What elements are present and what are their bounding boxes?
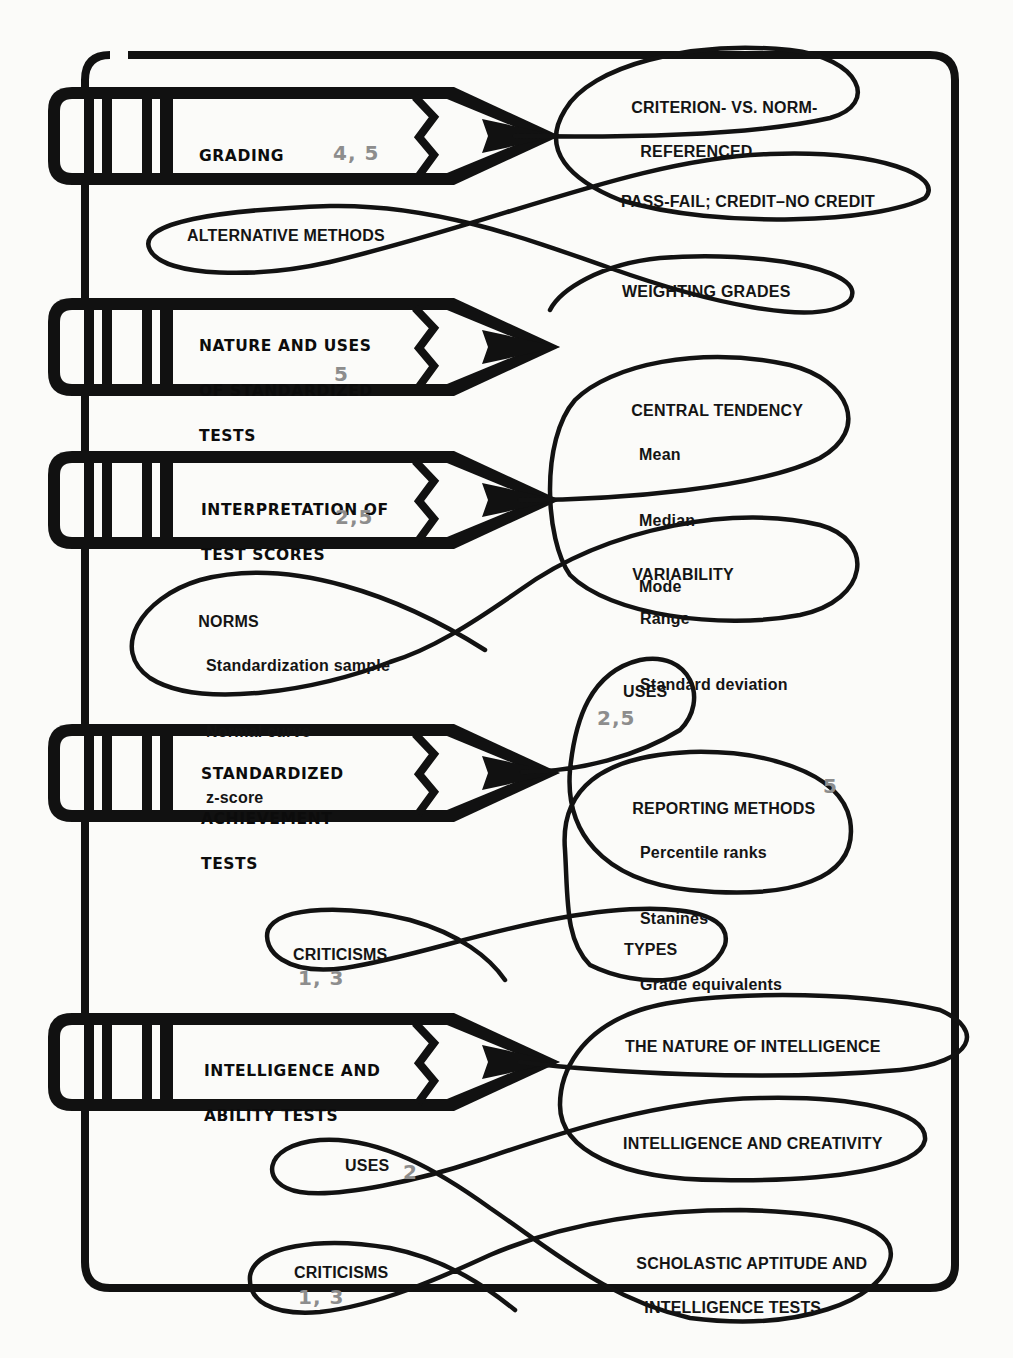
branch-nature-of-intelligence: THE NATURE OF INTELLIGENCE — [625, 1036, 881, 1058]
branch-reporting-methods: REPORTING METHODS Percentile ranks Stani… — [623, 776, 815, 1018]
pencil-icon-grading — [48, 87, 560, 185]
chapter-ref-intelligence-criticisms: 1, 3 — [298, 1285, 344, 1309]
chapter-ref-grading: 4, 5 — [333, 141, 379, 165]
chapter-ref-achievement-uses: 2,5 — [597, 706, 635, 730]
branch-criterion-norm: CRITERION- VS. NORM- REFERENCED — [622, 75, 818, 163]
chapter-ref-interpretation: 2,5 — [335, 505, 373, 529]
chapter-ref-standardized-tests: 5 — [334, 362, 349, 386]
branch-achievement-uses: USES — [623, 681, 667, 703]
branch-scholastic-aptitude: SCHOLASTIC APTITUDE AND INTELLIGENCE TES… — [627, 1231, 867, 1319]
branch-alternative-methods: ALTERNATIVE METHODS — [187, 225, 385, 247]
branch-intelligence-criticisms: CRITICISMS — [294, 1262, 388, 1284]
branch-intelligence-creativity: INTELLIGENCE AND CREATIVITY — [623, 1133, 883, 1155]
chapter-ref-intelligence-uses: 2 — [403, 1160, 418, 1184]
branch-pass-fail: PASS-FAIL; CREDIT–NO CREDIT — [621, 191, 875, 213]
chapter-ref-reporting-methods: 5 — [823, 774, 838, 798]
branch-types: TYPES — [624, 939, 677, 961]
chapter-ref-achievement-criticisms: 1, 3 — [298, 966, 344, 990]
branch-weighting-grades: WEIGHTING GRADES — [622, 281, 791, 303]
topic-title-intelligence: INTELLIGENCE AND ABILITY TESTS — [192, 1037, 381, 1127]
branch-achievement-criticisms: CRITICISMS — [293, 944, 387, 966]
branch-intelligence-uses: USES — [345, 1155, 389, 1177]
topic-title-grading: GRADING — [187, 122, 284, 167]
branch-norms: NORMS Standardization sample Normal curv… — [189, 589, 390, 831]
